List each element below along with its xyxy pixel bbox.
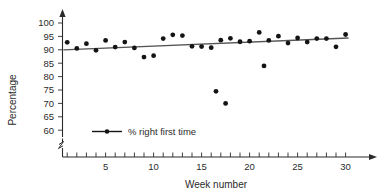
- data-point: [94, 48, 99, 53]
- data-point: [286, 41, 291, 46]
- data-point: [343, 32, 348, 37]
- x-tick-group: [67, 153, 345, 158]
- x-axis-title: Week number: [185, 179, 248, 190]
- data-point: [228, 36, 233, 41]
- legend-label: % right first time: [128, 126, 196, 137]
- x-tick-label: 5: [103, 161, 108, 172]
- data-point-group: [65, 30, 348, 106]
- data-point: [295, 36, 300, 41]
- data-point: [334, 44, 339, 49]
- data-point: [247, 39, 252, 44]
- data-point: [257, 30, 262, 35]
- data-point: [218, 38, 223, 43]
- data-point: [305, 40, 310, 45]
- y-axis: [59, 9, 66, 157]
- x-axis-arrow-icon: [369, 154, 377, 160]
- y-tick-label: 60: [43, 125, 54, 136]
- data-point: [65, 40, 70, 45]
- y-tick-label: 70: [43, 98, 54, 109]
- data-point: [161, 36, 166, 41]
- data-point: [84, 41, 89, 46]
- legend-marker-icon: [105, 129, 110, 134]
- x-axis: [63, 154, 378, 160]
- legend: % right first time: [92, 126, 196, 137]
- data-point: [74, 46, 79, 51]
- data-point: [214, 89, 219, 94]
- y-tick-label: 100: [38, 17, 54, 28]
- x-tick-label: 15: [196, 161, 207, 172]
- data-point: [262, 63, 267, 68]
- data-point: [180, 33, 185, 38]
- y-tick-label: 75: [43, 84, 54, 95]
- data-point: [142, 55, 147, 60]
- y-axis-break-icon: [59, 142, 64, 149]
- data-point: [266, 38, 271, 43]
- y-axis-arrow-icon: [59, 9, 65, 17]
- x-tick-label: 30: [340, 161, 351, 172]
- y-tick-group: 100 95 90 85 80 75 70 65 60: [38, 17, 62, 135]
- data-point: [314, 36, 319, 41]
- y-tick-label: 90: [43, 44, 54, 55]
- data-point: [223, 101, 228, 106]
- data-point: [209, 45, 214, 50]
- x-tick-label-group: 5 10 15 20 25 30: [103, 161, 351, 172]
- data-point: [103, 38, 108, 43]
- chart-container: 100 95 90 85 80 75 70 65 60 5 10 15 2: [0, 0, 382, 194]
- data-point: [190, 44, 195, 49]
- x-tick-label: 20: [244, 161, 255, 172]
- y-tick-label: 65: [43, 111, 54, 122]
- y-tick-label: 85: [43, 58, 54, 69]
- x-tick-label: 25: [292, 161, 303, 172]
- x-tick-label: 10: [148, 161, 159, 172]
- y-tick-label: 95: [43, 31, 54, 42]
- data-point: [238, 39, 243, 44]
- data-point: [324, 36, 329, 41]
- y-tick-label: 80: [43, 71, 54, 82]
- data-point: [151, 53, 156, 58]
- data-point: [276, 34, 281, 39]
- y-axis-title: Percentage: [7, 74, 18, 126]
- data-point: [122, 40, 127, 45]
- data-point: [199, 44, 204, 49]
- data-point: [170, 32, 175, 37]
- data-point: [132, 46, 137, 51]
- data-point: [113, 45, 118, 50]
- scatter-plot: 100 95 90 85 80 75 70 65 60 5 10 15 2: [0, 0, 382, 194]
